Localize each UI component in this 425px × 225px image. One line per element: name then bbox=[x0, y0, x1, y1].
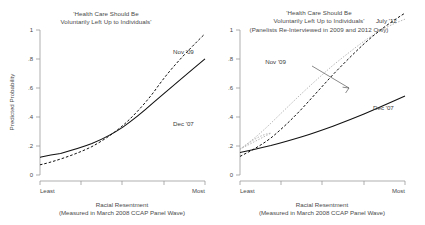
panel-right-x-label-least: Least bbox=[240, 188, 255, 194]
figure-root: 'Health Care Should Be Voluntarily Left … bbox=[0, 0, 425, 225]
panel-left-y-axis-title: Predicted Probability bbox=[8, 73, 15, 131]
panel-left-x-label-least: Least bbox=[40, 188, 55, 194]
panel-left-curve-label-nov09: Nov '09 bbox=[173, 48, 194, 55]
panel-left-curve-label-dec07: Dec '07 bbox=[173, 120, 194, 127]
panel-left-x-axis-subtitle: (Measured in March 2008 CCAP Panel Wave) bbox=[59, 209, 185, 216]
chart-panel-left: 'Health Care Should Be Voluntarily Left … bbox=[0, 0, 212, 225]
chart-panel-right: 'Health Care Should Be Voluntarily Left … bbox=[213, 0, 425, 225]
panel-left-y-label-0: 0 bbox=[30, 172, 34, 178]
panel-right-x-label-most: Most bbox=[392, 188, 405, 194]
panel-left-y-label-1: 1 bbox=[30, 27, 34, 33]
panel-left-y-label-06: .6 bbox=[28, 85, 34, 91]
panel-right-x-axis-subtitle: (Measured in March 2008 CCAP Panel Wave) bbox=[259, 209, 385, 216]
panel-left-y-label-02: .2 bbox=[28, 143, 34, 149]
panel-right-curve-label-dec07: Dec '07 bbox=[373, 104, 394, 111]
panel-left-x-axis-title: Racial Resentment bbox=[96, 201, 149, 208]
panel-right-y-label-1: 1 bbox=[230, 27, 234, 33]
panel-right-plot: 1 .8 .6 .4 .2 0 Least Most Racial Resent… bbox=[213, 0, 425, 225]
panel-right-nov09-annotation-arrowhead bbox=[343, 87, 349, 93]
panel-left-plot: 1 .8 .6 .4 .2 0 Predicted Probability Le… bbox=[0, 0, 212, 225]
panel-left-y-label-04: .4 bbox=[28, 114, 34, 120]
panel-right-nov09-annotation-arrow bbox=[312, 66, 349, 88]
panel-left-y-label-08: .8 bbox=[28, 56, 34, 62]
panel-right-curve-label-july12: July '12 bbox=[376, 17, 397, 24]
panel-right-y-label-0: 0 bbox=[230, 172, 234, 178]
panel-left-x-label-most: Most bbox=[192, 188, 205, 194]
panel-right-curve-nov09 bbox=[240, 13, 405, 156]
panel-right-y-label-08: .8 bbox=[228, 56, 234, 62]
panel-right-curve-label-nov09: Nov '09 bbox=[265, 58, 286, 65]
panel-right-x-axis-title: Racial Resentment bbox=[296, 201, 349, 208]
panel-right-y-label-02: .2 bbox=[228, 143, 234, 149]
panel-right-y-label-04: .4 bbox=[228, 114, 234, 120]
panel-right-y-label-06: .6 bbox=[228, 85, 234, 91]
panel-left-curve-dec07 bbox=[40, 59, 205, 158]
